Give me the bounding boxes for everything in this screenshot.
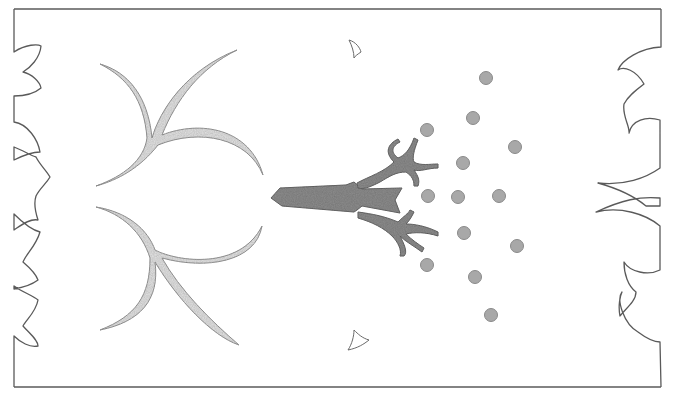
dot (458, 227, 471, 240)
dot (422, 190, 435, 203)
dot-grid (421, 72, 524, 322)
dot (480, 72, 493, 85)
sketch-canvas (0, 0, 677, 398)
dot (421, 124, 434, 137)
root-branch-upper (357, 138, 438, 189)
dot (452, 191, 465, 204)
frame-left-edge (14, 9, 50, 387)
root-branch-lower (358, 210, 438, 256)
dot (467, 112, 480, 125)
dot (469, 271, 482, 284)
crescent-top (349, 40, 361, 58)
dot (509, 141, 522, 154)
horn-branch-lower (96, 207, 262, 345)
frame-right-edge (596, 9, 661, 387)
tree-trunk (271, 182, 402, 213)
dot (457, 157, 470, 170)
crescent-bottom (348, 330, 369, 350)
dot (511, 240, 524, 253)
horn-branch-upper (96, 50, 263, 186)
dot (421, 259, 434, 272)
dot (493, 190, 506, 203)
sketch-svg (0, 0, 677, 398)
dot (485, 309, 498, 322)
